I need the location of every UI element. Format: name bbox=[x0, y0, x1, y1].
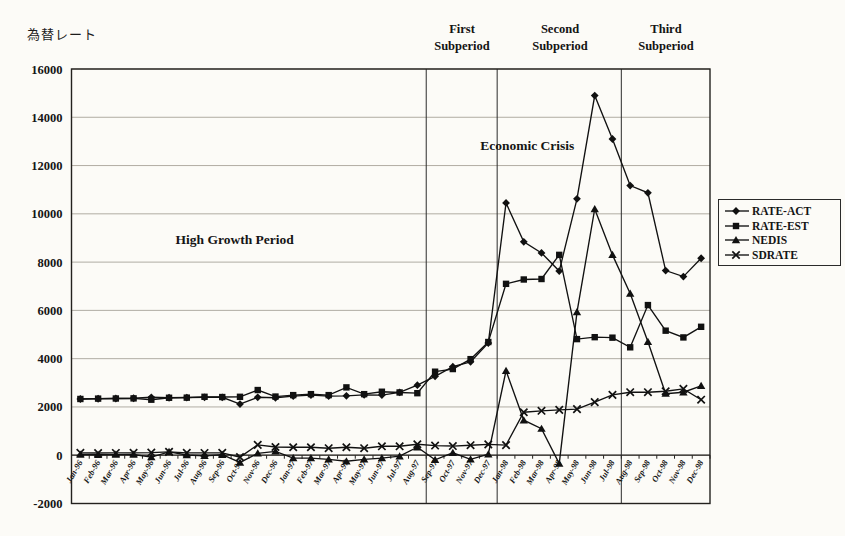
y-tick-label: 12000 bbox=[31, 159, 62, 173]
y-tick-label: 4000 bbox=[38, 352, 63, 366]
y-tick-label: 16000 bbox=[31, 63, 62, 77]
x-marker-icon bbox=[724, 249, 750, 261]
y-tick-label: 2000 bbox=[38, 400, 63, 414]
y-tick-label: -2000 bbox=[33, 497, 62, 511]
legend-label: SDRATE bbox=[752, 249, 798, 261]
series-line-SDRATE bbox=[80, 389, 701, 457]
x-tick-label: May-98 bbox=[559, 458, 582, 488]
x-tick-label: Aug-97 bbox=[399, 458, 422, 487]
triangle-marker-icon bbox=[724, 234, 750, 246]
x-tick-label: Aug-96 bbox=[187, 458, 210, 487]
y-tick-label: 14000 bbox=[31, 111, 62, 125]
series-line-RATE-EST bbox=[80, 255, 701, 400]
legend-label: RATE-ACT bbox=[752, 205, 811, 217]
plot-border bbox=[72, 69, 711, 504]
x-tick-label: Mar-96 bbox=[98, 458, 121, 487]
annotation: High Growth Period bbox=[176, 232, 295, 247]
annotations: High Growth PeriodEconomic Crisis bbox=[176, 138, 575, 247]
legend-item-RATE-ACT: RATE-ACT bbox=[724, 204, 838, 219]
x-tick-label: Nov-98 bbox=[666, 458, 688, 487]
y-axis-tick-labels: -200002000400060008000100001200014000160… bbox=[31, 63, 62, 512]
y-tick-label: 8000 bbox=[38, 256, 63, 270]
gridlines bbox=[72, 69, 711, 504]
x-tick-label: Dec-98 bbox=[684, 458, 706, 486]
x-tick-label: Sep-98 bbox=[631, 458, 652, 485]
diamond-marker-icon bbox=[724, 205, 750, 217]
annotation: Economic Crisis bbox=[480, 138, 574, 153]
x-tick-label: May-96 bbox=[133, 458, 156, 488]
series-line-NEDIS bbox=[80, 209, 701, 464]
x-tick-label: Nov-96 bbox=[240, 458, 262, 487]
x-tick-label: Jun-98 bbox=[577, 458, 599, 486]
y-tick-label: 0 bbox=[56, 449, 62, 463]
series-RATE-EST bbox=[77, 252, 704, 403]
x-tick-label: Jun-96 bbox=[152, 458, 174, 486]
legend-item-NEDIS: NEDIS bbox=[724, 233, 838, 248]
y-tick-label: 6000 bbox=[38, 304, 63, 318]
square-marker-icon bbox=[724, 220, 750, 232]
legend: RATE-ACTRATE-ESTNEDISSDRATE bbox=[718, 199, 841, 266]
legend-label: RATE-EST bbox=[752, 220, 809, 232]
series-line-RATE-ACT bbox=[80, 96, 701, 404]
x-axis-tick-labels: Jan-96Feb-96Mar-96Apr-96May-96Jun-96Jul-… bbox=[63, 458, 706, 488]
y-tick-label: 10000 bbox=[31, 207, 62, 221]
chart-figure: 為替レート First Subperiod Second Subperiod T… bbox=[0, 0, 845, 536]
chart-plot: -200002000400060008000100001200014000160… bbox=[0, 0, 845, 536]
legend-item-RATE-EST: RATE-EST bbox=[724, 219, 838, 234]
x-tick-label: Mar-98 bbox=[523, 458, 546, 487]
x-tick-label: Dec-96 bbox=[258, 458, 280, 486]
legend-label: NEDIS bbox=[752, 234, 787, 246]
period-divider-lines bbox=[426, 69, 621, 504]
x-tick-label: Sep-96 bbox=[206, 458, 227, 485]
x-tick-label: Aug-98 bbox=[612, 458, 635, 487]
legend-item-SDRATE: SDRATE bbox=[724, 248, 838, 263]
